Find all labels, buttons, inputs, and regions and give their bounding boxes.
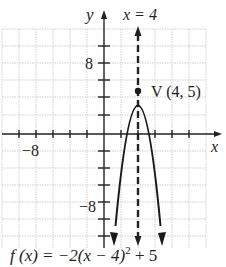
y-axis bbox=[98, 10, 110, 248]
formula-lhs: f (x) = −2(x − 4) bbox=[10, 246, 125, 265]
x-tick-label-neg8: −8 bbox=[22, 142, 39, 159]
arrow-down-icon bbox=[158, 232, 166, 246]
x-axis bbox=[2, 130, 222, 138]
arrow-up-icon bbox=[135, 26, 142, 36]
axis-of-symmetry bbox=[135, 26, 142, 246]
function-formula: f (x) = −2(x − 4)2 + 5 bbox=[10, 244, 157, 266]
x-axis-label: x bbox=[210, 138, 218, 155]
vertex-label: V (4, 5) bbox=[151, 83, 201, 101]
formula-rhs: + 5 bbox=[131, 246, 158, 265]
x-axis-arrow-icon bbox=[214, 131, 222, 137]
y-tick-label-neg8: −8 bbox=[79, 198, 96, 215]
y-axis-arrow-icon bbox=[101, 10, 107, 19]
y-tick-label-8: 8 bbox=[85, 55, 93, 72]
symmetry-label: x = 4 bbox=[122, 6, 157, 23]
vertex-point bbox=[135, 88, 141, 94]
y-axis-label: y bbox=[84, 5, 94, 24]
graph: y x 8 −8 −8 x = 4 V (4, 5) bbox=[0, 0, 226, 267]
